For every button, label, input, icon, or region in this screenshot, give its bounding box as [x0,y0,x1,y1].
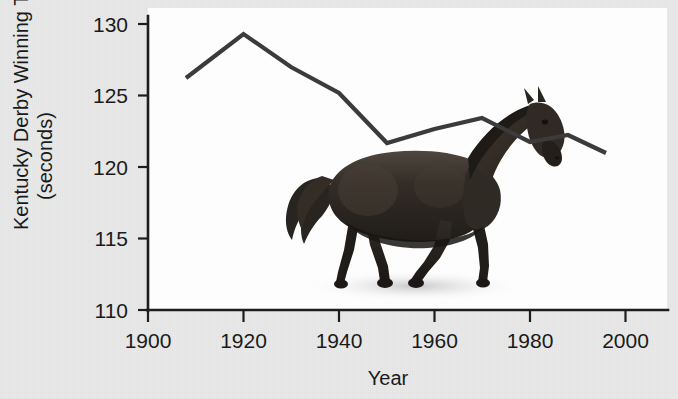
y-tick-label-125: 125 [93,84,128,107]
x-tick-label-1960: 1960 [411,329,458,352]
y-axis-title-line1: Kentucky Derby Winning Time [10,0,32,230]
y-tick-label-110: 110 [95,299,128,322]
y-tick-label-115: 115 [95,227,128,250]
x-axis-title: Year [368,367,409,389]
y-axis-title-line2: (seconds) [34,112,56,200]
x-tick-label-1920: 1920 [220,329,267,352]
x-tick-label-1940: 1940 [316,329,363,352]
y-tick-label-130: 130 [93,13,128,36]
x-tick-label-1980: 1980 [507,329,554,352]
y-tick-label-120: 120 [93,156,128,179]
x-tick-label-1900: 1900 [125,329,172,352]
line-chart: Kentucky Derby Winning Time (seconds) 11… [0,0,678,399]
chart-figure: Kentucky Derby Winning Time (seconds) 11… [0,0,678,399]
x-tick-label-2000: 2000 [602,329,649,352]
